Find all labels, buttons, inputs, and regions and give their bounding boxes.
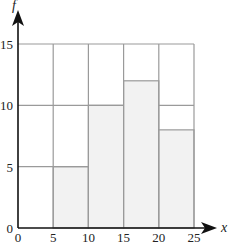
y-tick-label: 5 — [7, 160, 14, 175]
x-tick-label: 10 — [82, 230, 95, 245]
y-tick-label: 0 — [7, 221, 14, 236]
x-tick-label: 25 — [188, 230, 201, 245]
bar — [124, 81, 159, 228]
x-tick-label: 0 — [15, 230, 22, 245]
x-tick-label: 15 — [117, 230, 130, 245]
y-tick-label: 15 — [0, 37, 13, 52]
bar — [159, 130, 194, 228]
bar — [88, 105, 123, 228]
histogram-chart: 0510152025051015 f x — [0, 0, 229, 245]
x-tick-label: 20 — [152, 230, 165, 245]
y-axis-label: f — [12, 0, 18, 13]
bar — [53, 167, 88, 228]
x-tick-label: 5 — [50, 230, 57, 245]
x-axis-label: x — [220, 220, 228, 235]
y-tick-label: 10 — [0, 98, 13, 113]
